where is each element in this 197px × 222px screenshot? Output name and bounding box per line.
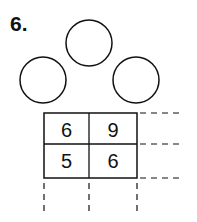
grid-cell-r1c2: 9 (89, 114, 137, 146)
grid-cell-r1c1: 6 (44, 114, 89, 146)
circle-top (66, 20, 112, 66)
diagram-lines (0, 0, 197, 222)
grid-cell-r2c1: 5 (44, 145, 89, 177)
circle-right (113, 57, 159, 103)
circle-left (20, 57, 66, 103)
grid-cell-r2c2: 6 (89, 145, 137, 177)
